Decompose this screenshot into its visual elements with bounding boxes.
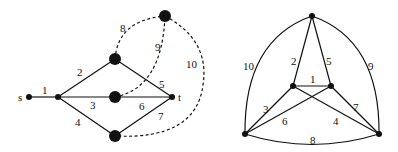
edge-9	[312, 16, 379, 134]
node-top	[159, 10, 171, 22]
graph-diagram: s t 1 2 3 4 5 6 7 8 9 10 1 2 3 4	[0, 0, 398, 152]
edge-label-1: 1	[310, 73, 316, 85]
edge-label-3: 3	[263, 103, 269, 115]
node-lower	[109, 130, 121, 142]
label-t: t	[178, 91, 181, 103]
node-inner-right	[328, 83, 334, 89]
edge-label-6: 6	[139, 100, 145, 112]
node-inner-left	[290, 83, 296, 89]
node-top	[309, 13, 315, 19]
edge-label-2: 2	[291, 55, 297, 67]
edge-label-4: 4	[333, 115, 339, 127]
node-middle	[109, 91, 121, 103]
edge-label-8: 8	[120, 22, 126, 34]
edge-label-3: 3	[90, 99, 96, 111]
edge-6	[245, 86, 331, 134]
label-s: s	[18, 91, 22, 103]
edge-label-5: 5	[159, 78, 165, 90]
edge-label-10: 10	[186, 58, 198, 70]
edge-label-4: 4	[75, 116, 81, 128]
edge-label-2: 2	[77, 66, 83, 78]
edge-label-5: 5	[326, 55, 332, 67]
edge-4	[58, 97, 115, 136]
edge-label-8: 8	[310, 134, 316, 146]
node-a	[55, 94, 61, 100]
node-bottom-right	[376, 131, 382, 137]
edge-label-10: 10	[243, 60, 255, 72]
node-upper	[109, 53, 121, 65]
edge-label-1: 1	[42, 84, 48, 96]
edge-label-7: 7	[158, 110, 164, 122]
edge-10	[245, 16, 312, 134]
edge-2	[58, 59, 115, 97]
node-bottom-left	[242, 131, 248, 137]
edge-label-7: 7	[353, 101, 359, 113]
node-s	[26, 94, 32, 100]
right-graph: 1 2 3 4 5 6 7 8 9 10	[242, 13, 382, 146]
left-graph: s t 1 2 3 4 5 6 7 8 9 10	[18, 10, 204, 142]
edge-label-9: 9	[155, 41, 161, 53]
edge-label-6: 6	[282, 115, 288, 127]
node-t	[169, 94, 175, 100]
edge-label-9: 9	[368, 60, 374, 72]
